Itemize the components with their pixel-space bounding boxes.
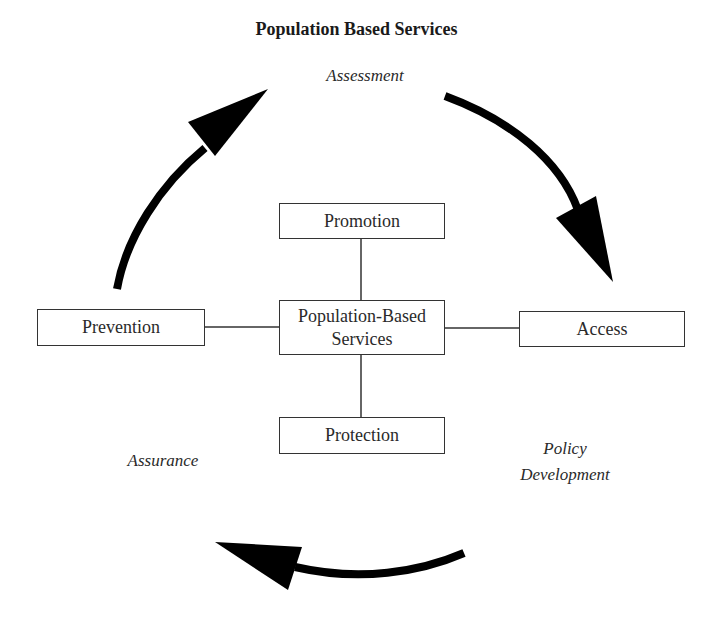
node-population-based-services: Population-Based Services (279, 300, 445, 355)
diagram-title: Population Based Services (0, 19, 713, 40)
phase-assurance: Assurance (103, 448, 223, 474)
node-center-line1: Population-Based (298, 305, 426, 328)
node-prevention: Prevention (37, 309, 205, 346)
node-access: Access (519, 311, 685, 347)
node-center-line2: Services (332, 328, 393, 351)
arrow-to-assessment-icon (117, 89, 268, 289)
arrow-to-policy-development-icon (445, 96, 613, 282)
phase-assessment: Assessment (290, 63, 440, 89)
arrow-to-assurance-icon (215, 542, 464, 590)
node-protection: Protection (279, 417, 445, 454)
phase-policy-development: Policy Development (495, 436, 635, 488)
node-promotion: Promotion (279, 203, 445, 239)
phase-policy-line1: Policy (495, 436, 635, 462)
phase-policy-line2: Development (495, 462, 635, 488)
